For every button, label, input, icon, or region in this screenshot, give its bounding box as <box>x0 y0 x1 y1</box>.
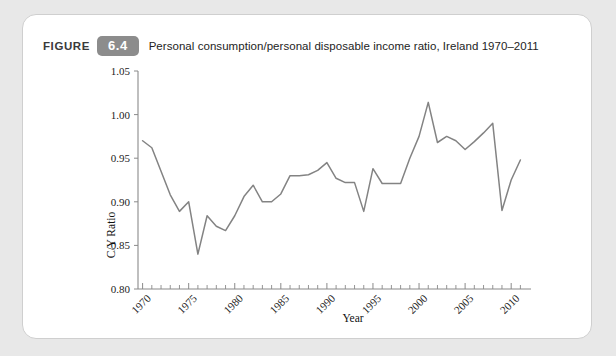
y-tick-label: 0.90 <box>111 196 131 208</box>
figure-number-badge: 6.4 <box>97 36 139 56</box>
data-series-group <box>143 102 521 254</box>
x-tick-label: 2000 <box>405 292 429 316</box>
figure-card: FIGURE 6.4 Personal consumption/personal… <box>22 14 592 339</box>
x-axis-title: Year <box>342 312 363 324</box>
x-tick-label: 2005 <box>451 292 475 316</box>
data-line-cy-ratio <box>143 102 521 254</box>
x-axis: 197019751980198519901995200020052010 <box>129 283 531 316</box>
x-tick-label: 1985 <box>267 292 291 316</box>
figure-label: FIGURE <box>43 40 90 52</box>
y-tick-label: 0.95 <box>111 152 131 164</box>
x-tick-label: 1975 <box>175 292 199 316</box>
x-tick-label: 1970 <box>129 292 153 316</box>
x-tick-label: 1990 <box>313 292 337 316</box>
y-axis: 1.051.000.950.900.850.80 <box>111 65 138 295</box>
y-tick-label: 1.05 <box>111 65 131 77</box>
figure-caption-row: FIGURE 6.4 Personal consumption/personal… <box>43 33 577 59</box>
y-tick-label: 1.00 <box>111 109 131 121</box>
y-tick-label: 0.80 <box>111 283 131 295</box>
line-chart: 1.051.000.950.900.850.80 197019751980198… <box>23 59 593 337</box>
chart-plot-area: 1.051.000.950.900.850.80 197019751980198… <box>23 59 593 337</box>
figure-caption-text: Personal consumption/personal disposable… <box>149 40 539 52</box>
x-tick-label: 1980 <box>221 292 245 316</box>
x-tick-label: 2010 <box>498 292 522 316</box>
y-axis-title: C/Y Ratio <box>105 211 117 258</box>
